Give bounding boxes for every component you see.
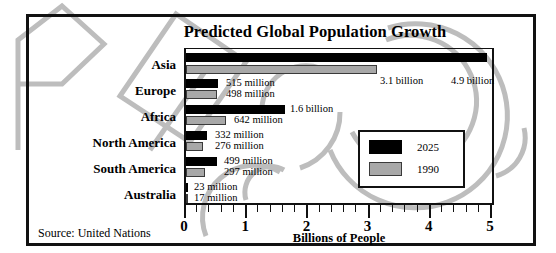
bar-asia-2025 — [186, 53, 487, 62]
axis-tick-minor — [257, 205, 258, 212]
bar-australia-1990 — [186, 194, 188, 203]
legend-item-1990: 1990 — [369, 162, 459, 178]
axis-tick-major — [245, 205, 247, 218]
value-label-asia-1990: 3.1 billion — [380, 75, 423, 86]
legend-item-2025: 2025 — [369, 140, 459, 156]
axis-tick-minor — [343, 205, 344, 212]
category-label-europe: Europe — [135, 83, 176, 99]
legend-label-2025: 2025 — [417, 140, 439, 154]
axis-tick-minor — [404, 205, 405, 212]
value-label-north-america-2025: 332 million — [215, 129, 264, 140]
axis-tick-minor — [221, 205, 222, 212]
bar-europe-2025 — [186, 79, 218, 88]
bar-north-america-1990 — [186, 142, 203, 151]
bar-south-america-1990 — [186, 168, 205, 177]
axis-tick-minor — [282, 205, 283, 212]
category-label-north-america: North America — [93, 135, 176, 151]
bar-north-america-2025 — [186, 131, 207, 140]
bar-australia-2025 — [186, 183, 188, 192]
axis-tick-minor — [453, 205, 454, 212]
value-label-australia-1990: 17 million — [194, 192, 237, 203]
axis-tick-minor — [208, 205, 209, 212]
bar-south-america-2025 — [186, 157, 217, 166]
value-label-africa-2025: 1.6 billion — [290, 103, 333, 114]
axis-tick-major — [306, 205, 308, 218]
axis-tick-major — [429, 205, 431, 218]
category-label-asia: Asia — [151, 57, 176, 73]
category-label-africa: Africa — [141, 109, 176, 125]
axis-tick-minor — [441, 205, 442, 212]
value-label-australia-2025: 23 million — [194, 181, 237, 192]
axis-tick-minor — [466, 205, 467, 212]
legend-label-1990: 1990 — [417, 162, 439, 176]
axis-tick-minor — [392, 205, 393, 212]
value-label-north-america-1990: 276 million — [215, 140, 264, 151]
value-label-europe-2025: 515 million — [226, 77, 275, 88]
legend-swatch-2025 — [369, 140, 402, 154]
x-axis-title: Billions of People — [184, 231, 494, 246]
bar-africa-1990 — [186, 116, 226, 125]
axis-tick-minor — [270, 205, 271, 212]
axis-tick-minor — [196, 205, 197, 212]
value-label-europe-1990: 498 million — [226, 88, 275, 99]
value-label-asia-2025: 4.9 billion — [451, 75, 494, 86]
value-label-south-america-2025: 499 million — [224, 155, 273, 166]
bar-africa-2025 — [186, 105, 285, 114]
category-axis-labels: Asia Europe Africa North America South A… — [28, 48, 180, 205]
axis-tick-major — [490, 205, 492, 218]
axis-tick-minor — [331, 205, 332, 212]
axis-tick-major — [184, 205, 186, 218]
axis-tick-minor — [233, 205, 234, 212]
axis-tick-minor — [355, 205, 356, 212]
chart-legend: 2025 1990 — [358, 130, 465, 188]
category-label-australia: Australia — [124, 187, 176, 203]
source-note: Source: United Nations — [38, 226, 151, 241]
axis-tick-minor — [417, 205, 418, 212]
bar-asia-1990 — [186, 65, 377, 74]
value-label-south-america-1990: 297 million — [224, 166, 273, 177]
axis-tick-minor — [294, 205, 295, 212]
axis-tick-major — [368, 205, 370, 218]
axis-tick-minor — [478, 205, 479, 212]
axis-tick-minor — [380, 205, 381, 212]
x-axis: 012345 — [184, 205, 494, 221]
axis-tick-minor — [319, 205, 320, 212]
bar-europe-1990 — [186, 90, 217, 99]
value-label-africa-1990: 642 million — [234, 114, 283, 125]
category-label-south-america: South America — [93, 161, 176, 177]
chart-title: Predicted Global Population Growth — [150, 22, 480, 42]
legend-swatch-1990 — [369, 162, 402, 176]
